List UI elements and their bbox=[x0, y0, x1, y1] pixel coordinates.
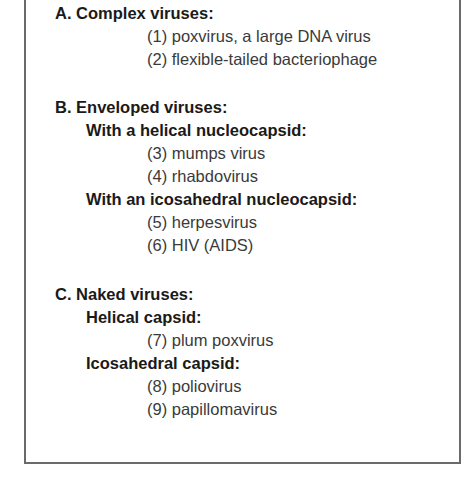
list-item: (7) plum poxvirus bbox=[147, 329, 274, 352]
list-item: (3) mumps virus bbox=[147, 142, 265, 165]
section-a-heading: A. Complex viruses: bbox=[55, 2, 214, 25]
subsection-heading: With a helical nucleocapsid: bbox=[86, 119, 307, 142]
list-item: (6) HIV (AIDS) bbox=[147, 234, 253, 257]
list-item: (9) papillomavirus bbox=[147, 398, 277, 421]
subsection-heading: Helical capsid: bbox=[86, 306, 202, 329]
section-b-heading: B. Enveloped viruses: bbox=[55, 96, 227, 119]
list-item: (1) poxvirus, a large DNA virus bbox=[147, 25, 371, 48]
section-c-heading: C. Naked viruses: bbox=[55, 283, 193, 306]
list-item: (8) poliovirus bbox=[147, 375, 241, 398]
list-item: (4) rhabdovirus bbox=[147, 165, 258, 188]
list-item: (5) herpesvirus bbox=[147, 211, 257, 234]
list-item: (2) flexible-tailed bacteriophage bbox=[147, 48, 377, 71]
subsection-heading: With an icosahedral nucleocapsid: bbox=[86, 188, 357, 211]
subsection-heading: Icosahedral capsid: bbox=[86, 352, 240, 375]
